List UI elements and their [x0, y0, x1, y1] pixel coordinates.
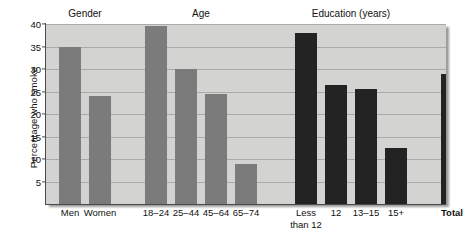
- y-tick-mark-25: [42, 91, 46, 92]
- y-tick-label-5: 5: [17, 176, 41, 187]
- y-tick-label-20: 20: [17, 109, 41, 120]
- x-tick-label: Total: [426, 207, 467, 219]
- bar: [59, 47, 81, 205]
- group-header: Age: [131, 8, 271, 19]
- y-tick-label-40: 40: [17, 19, 41, 30]
- bar: [89, 96, 111, 204]
- y-tick-label-35: 35: [17, 41, 41, 52]
- y-tick-mark-15: [42, 136, 46, 137]
- y-tick-label-25: 25: [17, 86, 41, 97]
- y-tick-mark-5: [42, 181, 46, 182]
- group-header-row: GenderAgeEducation (years): [46, 8, 450, 24]
- x-tick-label: 15+: [370, 207, 422, 219]
- y-tick-label-10: 10: [17, 154, 41, 165]
- x-axis-label-row: MenWomen18–2425–4445–6465–74Less than 12…: [46, 207, 450, 247]
- gridline-35: [46, 47, 446, 48]
- x-axis-line: [45, 204, 446, 205]
- group-header: Education (years): [281, 8, 421, 19]
- gridline-30: [46, 69, 446, 70]
- bar: [325, 85, 347, 204]
- y-tick-mark-40: [42, 23, 46, 24]
- gridline-40: [46, 24, 446, 25]
- bar: [385, 148, 407, 204]
- x-tick-label: Women: [74, 207, 126, 219]
- y-tick-mark-20: [42, 113, 46, 114]
- y-tick-label-15: 15: [17, 131, 41, 142]
- bar: [441, 74, 446, 205]
- bar: [205, 94, 227, 204]
- y-tick-mark-30: [42, 68, 46, 69]
- x-tick-label: 65–74: [220, 207, 272, 219]
- y-tick-mark-10: [42, 158, 46, 159]
- bar: [175, 69, 197, 204]
- bar: [235, 164, 257, 205]
- bar: [145, 26, 167, 204]
- bar: [295, 33, 317, 204]
- bar: [355, 89, 377, 204]
- y-tick-label-30: 30: [17, 64, 41, 75]
- y-tick-mark-35: [42, 46, 46, 47]
- plot-area: [46, 24, 446, 204]
- gridline-25: [46, 92, 446, 93]
